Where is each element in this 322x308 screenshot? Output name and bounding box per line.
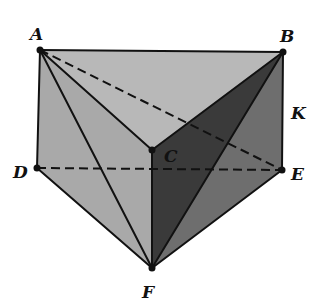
vertex-D: [34, 165, 41, 172]
faces: [37, 50, 283, 268]
vertex-B: [280, 49, 287, 56]
label-E: E: [290, 164, 305, 184]
label-F: F: [141, 282, 156, 302]
label-D: D: [12, 162, 28, 182]
label-C: C: [164, 146, 178, 166]
vertex-C: [149, 147, 156, 154]
edge-BE: [282, 52, 283, 170]
label-K: K: [290, 103, 307, 123]
geometry-diagram: ABCDEFK: [0, 0, 322, 308]
vertex-F: [149, 265, 156, 272]
vertex-E: [279, 167, 286, 174]
label-B: B: [279, 26, 294, 46]
vertex-A: [37, 47, 44, 54]
label-A: A: [28, 24, 43, 44]
